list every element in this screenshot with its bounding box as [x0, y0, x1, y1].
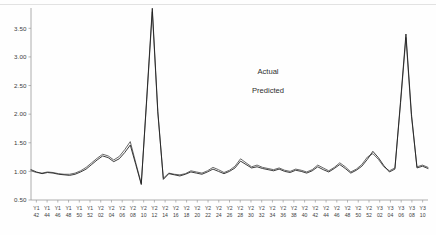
x-tick-label-period: 20 — [194, 212, 200, 218]
x-tick-label-period: 04 — [109, 212, 115, 218]
x-tick-label-year: Y1 — [65, 205, 71, 211]
x-tick-label-period: 52 — [366, 212, 372, 218]
x-tick-label-period: 52 — [87, 212, 93, 218]
x-tick-label-year: Y2 — [108, 205, 114, 211]
x-tick-label-year: Y2 — [259, 205, 265, 211]
x-tick-label-year: Y1 — [87, 205, 93, 211]
x-tick-label-period: 30 — [248, 212, 254, 218]
x-tick-label-period: 50 — [355, 212, 361, 218]
x-tick-label-year: Y2 — [130, 205, 136, 211]
x-tick-label-period: 02 — [377, 212, 383, 218]
x-tick-label-period: 44 — [44, 212, 50, 218]
x-tick-label-year: Y2 — [205, 205, 211, 211]
x-tick-label-year: Y2 — [355, 205, 361, 211]
x-tick-label-period: 36 — [280, 212, 286, 218]
legend-label-actual: Actual — [257, 67, 278, 76]
x-tick-label-year: Y3 — [387, 205, 393, 211]
x-tick-label-year: Y2 — [291, 205, 297, 211]
x-tick-label-year: Y1 — [76, 205, 82, 211]
x-tick-label-period: 04 — [388, 212, 394, 218]
x-tick-label-period: 46 — [334, 212, 340, 218]
x-tick-label-period: 26 — [227, 212, 233, 218]
x-tick-label-year: Y2 — [344, 205, 350, 211]
x-tick-label-period: 42 — [313, 212, 319, 218]
x-tick-label-period: 44 — [323, 212, 329, 218]
y-tick-label: 1.50 — [14, 139, 27, 146]
x-tick-label-year: Y2 — [248, 205, 254, 211]
x-tick-label-period: 10 — [420, 212, 426, 218]
x-tick-label-year: Y2 — [162, 205, 168, 211]
x-tick-label-year: Y2 — [173, 205, 179, 211]
chart-figure: 0.501.001.502.002.503.003.50 Y142Y144Y14… — [0, 0, 436, 235]
x-tick-label-year: Y3 — [420, 205, 426, 211]
x-tick-label-period: 06 — [398, 212, 404, 218]
x-tick-label-year: Y2 — [312, 205, 318, 211]
x-tick-label-period: 48 — [345, 212, 351, 218]
chart-legend: ActualPredicted — [252, 67, 284, 95]
x-tick-label-year: Y2 — [323, 205, 329, 211]
x-tick-label-period: 18 — [184, 212, 190, 218]
x-tick-label-period: 24 — [216, 212, 222, 218]
x-tick-label-year: Y2 — [141, 205, 147, 211]
series-line-actual — [31, 8, 428, 184]
x-tick-label-year: Y2 — [98, 205, 104, 211]
y-tick-label: 2.00 — [14, 110, 27, 117]
y-tick-label: 0.50 — [14, 196, 27, 203]
x-tick-label-period: 22 — [205, 212, 211, 218]
x-tick-label-period: 40 — [302, 212, 308, 218]
x-tick-label-period: 06 — [119, 212, 125, 218]
x-tick-label-year: Y2 — [366, 205, 372, 211]
x-tick-label-year: Y2 — [194, 205, 200, 211]
y-axis: 0.501.001.502.002.503.003.50 — [14, 8, 31, 203]
x-tick-label-period: 32 — [259, 212, 265, 218]
y-tick-label: 3.00 — [14, 53, 27, 60]
x-tick-label-year: Y2 — [280, 205, 286, 211]
x-tick-label-year: Y2 — [237, 205, 243, 211]
x-tick-label-period: 34 — [270, 212, 276, 218]
y-tick-label: 1.00 — [14, 168, 27, 175]
x-tick-label-year: Y1 — [55, 205, 61, 211]
x-tick-label-period: 16 — [173, 212, 179, 218]
x-tick-label-year: Y2 — [151, 205, 157, 211]
x-tick-label-year: Y2 — [301, 205, 307, 211]
legend-label-predicted: Predicted — [252, 86, 284, 95]
x-tick-label-period: 50 — [76, 212, 82, 218]
x-tick-label-year: Y2 — [269, 205, 275, 211]
x-tick-label-year: Y1 — [44, 205, 50, 211]
x-tick-label-period: 14 — [162, 212, 168, 218]
series-lines — [31, 8, 428, 184]
x-tick-label-year: Y2 — [119, 205, 125, 211]
y-tick-label: 2.50 — [14, 82, 27, 89]
y-tick-label: 3.50 — [14, 25, 27, 32]
x-tick-label-period: 48 — [66, 212, 72, 218]
x-tick-label-year: Y2 — [334, 205, 340, 211]
x-tick-label-year: Y1 — [33, 205, 39, 211]
x-tick-label-year: Y2 — [216, 205, 222, 211]
x-tick-label-period: 42 — [34, 212, 40, 218]
x-tick-label-period: 38 — [291, 212, 297, 218]
x-tick-label-period: 08 — [130, 212, 136, 218]
chart-svg: 0.501.001.502.002.503.003.50 Y142Y144Y14… — [0, 0, 436, 235]
x-tick-label-period: 08 — [409, 212, 415, 218]
x-tick-label-period: 46 — [55, 212, 61, 218]
x-tick-label-year: Y3 — [409, 205, 415, 211]
x-tick-label-year: Y2 — [226, 205, 232, 211]
line-chart-plot: 0.501.001.502.002.503.003.50 Y142Y144Y14… — [0, 0, 436, 235]
x-tick-label-year: Y3 — [377, 205, 383, 211]
x-tick-label-period: 12 — [152, 212, 158, 218]
x-tick-label-year: Y3 — [398, 205, 404, 211]
x-tick-label-period: 10 — [141, 212, 147, 218]
x-tick-label-period: 02 — [98, 212, 104, 218]
x-axis: Y142Y144Y146Y148Y150Y152Y202Y204Y206Y208… — [31, 200, 428, 218]
x-tick-label-year: Y2 — [183, 205, 189, 211]
x-tick-label-period: 28 — [237, 212, 243, 218]
